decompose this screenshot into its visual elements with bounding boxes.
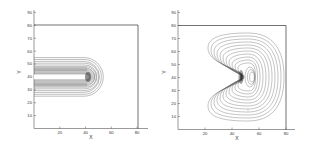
y-tick-label: 30 xyxy=(27,87,32,92)
y-tick-label: 80 xyxy=(27,23,32,28)
marker-dot xyxy=(248,110,249,111)
y-tick-label: 90 xyxy=(171,10,176,15)
right-plot: 10 20 30 40 50 60 70 80 90 Y 20 40 60 80… xyxy=(161,10,295,141)
y-tick-label: 70 xyxy=(27,36,32,41)
x-tick-label: 20 xyxy=(57,130,62,135)
x-tick-label: 80 xyxy=(135,130,140,135)
x-tick-label: 20 xyxy=(203,131,208,136)
right-contours xyxy=(208,33,284,121)
y-tick-label: 30 xyxy=(171,88,176,93)
y-tick-label: 60 xyxy=(171,49,176,54)
y-tick-label: 80 xyxy=(171,23,176,28)
figure: 10 20 30 40 50 60 70 80 90 Y 20 40 60 80… xyxy=(0,0,313,150)
dense-core xyxy=(240,73,243,81)
x-tick-label: 60 xyxy=(257,131,262,136)
y-axis-label: Y xyxy=(16,70,22,74)
y-tick-label: 50 xyxy=(171,62,176,67)
x-axis-label: X xyxy=(89,134,93,140)
x-axis-label: X xyxy=(235,135,239,141)
dense-band-top xyxy=(34,67,87,71)
y-axis-label: Y xyxy=(161,70,167,74)
x-tick-label: 40 xyxy=(230,131,235,136)
x-tick-label: 80 xyxy=(284,131,289,136)
y-tick-label: 10 xyxy=(171,114,176,119)
dense-band-bottom xyxy=(34,83,87,87)
center-slot xyxy=(34,75,87,80)
y-tick-label: 20 xyxy=(171,101,176,106)
y-tick-label: 90 xyxy=(27,10,32,15)
dense-tip xyxy=(85,72,91,82)
y-tick-label: 20 xyxy=(27,100,32,105)
y-tick-label: 10 xyxy=(27,113,32,118)
x-tick-label: 60 xyxy=(109,130,114,135)
y-tick-label: 60 xyxy=(27,49,32,54)
left-plot: 10 20 30 40 50 60 70 80 90 Y 20 40 60 80… xyxy=(16,10,148,140)
y-tick-label: 50 xyxy=(27,61,32,66)
y-tick-label: 40 xyxy=(171,75,176,80)
y-tick-label: 40 xyxy=(27,74,32,79)
x-tick-label: 40 xyxy=(83,130,88,135)
y-tick-label: 70 xyxy=(171,36,176,41)
